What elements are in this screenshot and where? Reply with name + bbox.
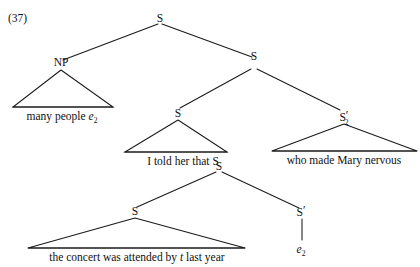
example-number: (37) bbox=[8, 12, 27, 25]
branch-embedded-s-to-s-prime bbox=[222, 172, 299, 208]
terminal-empty-category-subscript: 2 bbox=[302, 249, 306, 258]
syntax-tree-canvas: (37) S NP S S S′2 S bbox=[0, 0, 420, 267]
branch-s-right-to-s-prime-2 bbox=[257, 69, 340, 110]
node-s-prime-2-subscript: 2 bbox=[345, 118, 349, 127]
terminal-np-phrase-words: many people bbox=[27, 110, 89, 123]
terminal-concert-clause-part1: the concert was attended by bbox=[49, 251, 180, 264]
node-s-bottom: S bbox=[132, 205, 138, 217]
terminal-relative-clause: who made Mary nervous bbox=[287, 154, 402, 167]
node-s-right: S bbox=[251, 50, 257, 62]
branch-s-right-to-s-mid-left bbox=[180, 69, 251, 108]
node-s-prime: S′ bbox=[297, 204, 306, 219]
branch-embedded-s-to-s-bottom bbox=[137, 172, 216, 207]
triangle-relative-clause bbox=[272, 124, 417, 151]
branch-root-to-np bbox=[63, 24, 158, 60]
node-root-s: S bbox=[157, 12, 163, 24]
syntax-tree-figure: (37) S NP S S S′2 S bbox=[0, 0, 420, 267]
terminal-empty-category: e2 bbox=[297, 243, 306, 258]
triangle-np-phrase bbox=[13, 70, 113, 107]
terminal-told-clause-node: S bbox=[212, 155, 218, 167]
terminal-np-phrase-empty-subscript: 2 bbox=[94, 116, 98, 125]
node-np: NP bbox=[54, 56, 69, 68]
node-s-prime-2: S′2 bbox=[339, 109, 348, 128]
branch-root-to-s-right bbox=[162, 24, 252, 57]
terminal-np-phrase: many people e2 bbox=[27, 110, 98, 125]
node-s-mid-left: S bbox=[175, 107, 181, 119]
triangle-told-clause bbox=[125, 120, 227, 152]
node-s-prime-mark: ′ bbox=[303, 204, 306, 216]
terminal-concert-clause-part2: last year bbox=[183, 251, 225, 264]
terminal-told-clause: I told her that S bbox=[147, 155, 219, 167]
terminal-concert-clause: the concert was attended by t last year bbox=[49, 251, 224, 264]
terminal-told-clause-words: I told her that bbox=[147, 155, 212, 167]
triangle-concert-clause bbox=[28, 218, 245, 248]
